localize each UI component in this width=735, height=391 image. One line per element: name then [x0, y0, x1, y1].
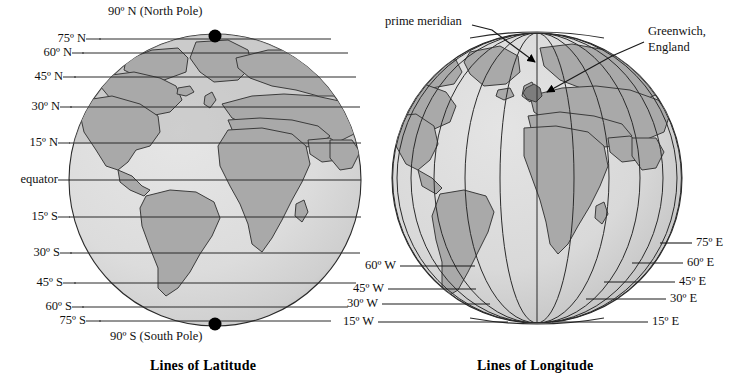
label-lat-30n: 30º N: [0, 100, 60, 113]
label-lon-15w: 15º W: [312, 315, 374, 328]
label-south-pole: 90º S (South Pole): [110, 330, 202, 343]
label-lat-60s: 60º S: [6, 300, 72, 313]
label-greenwich-line1: Greenwich,: [648, 25, 706, 38]
label-lat-15s: 15º S: [0, 210, 58, 223]
label-north-pole: 90º N (North Pole): [108, 5, 203, 18]
label-lon-45w: 45º W: [322, 282, 384, 295]
figure-root: 90º N (North Pole) 75º N 60º N 45º N 30º…: [0, 0, 735, 391]
north-pole-dot: [209, 30, 222, 43]
label-lon-45e: 45º E: [679, 275, 706, 288]
label-prime-meridian: prime meridian: [385, 15, 462, 28]
label-lon-60w: 60º W: [334, 259, 396, 272]
label-equator: equator: [0, 173, 58, 186]
label-greenwich-line2: England: [648, 41, 690, 54]
caption-lines-of-longitude: Lines of Longitude: [477, 358, 593, 374]
label-lat-30s: 30º S: [0, 246, 60, 259]
label-lon-30w: 30º W: [316, 297, 378, 310]
caption-lines-of-latitude: Lines of Latitude: [150, 358, 256, 374]
label-lat-15n: 15º N: [0, 136, 58, 149]
longitude-globe: [378, 25, 692, 324]
label-lat-75n: 75º N: [20, 32, 86, 45]
label-lon-75e: 75º E: [696, 236, 723, 249]
label-lat-60n: 60º N: [6, 46, 72, 59]
label-lon-15e: 15º E: [652, 315, 679, 328]
south-pole-dot: [209, 318, 222, 331]
label-lat-45s: 45º S: [0, 276, 63, 289]
label-lon-30e: 30º E: [670, 292, 697, 305]
label-lat-75s: 75º S: [20, 314, 86, 327]
label-lon-60e: 60º E: [687, 256, 714, 269]
latitude-globe: [58, 30, 361, 331]
label-lat-45n: 45º N: [0, 70, 63, 83]
